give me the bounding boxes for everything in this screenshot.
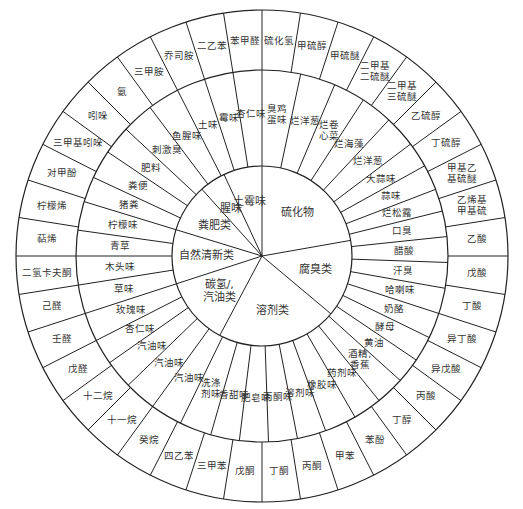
middle-segment-label: 醋酸 (394, 245, 414, 256)
middle-segment-label: 蒜味 (381, 189, 401, 200)
outer-segment-label: 戊酮 (235, 465, 255, 476)
outer-segment-label: 丁酮 (269, 465, 289, 476)
outer-segment-label: 苯酚 (365, 434, 385, 445)
middle-segment-label: 烂松露 (382, 207, 412, 218)
outer-segment-label: 苯甲醛 (230, 34, 260, 45)
outer-segment-label: 癸烷 (139, 434, 159, 445)
middle-segment-label: 土味 (198, 118, 218, 129)
middle-segment-label: 玫瑰味 (116, 304, 146, 315)
outer-segment-label: 三甲胺 (134, 65, 164, 76)
middle-segment-label: 柠檬味 (108, 219, 138, 230)
outer-segment-label: 对甲酚 (47, 167, 77, 178)
outer-segment-label: 十二烷 (83, 390, 113, 401)
middle-segment-label: 刺激臭 (152, 144, 182, 155)
middle-segment-label: 汽油味 (174, 371, 204, 382)
category-label: 自然清新类 (179, 248, 234, 262)
outer-segment-label: 乙烯基甲基硫 (457, 194, 487, 216)
middle-segment-label: 青草 (110, 240, 130, 251)
outer-segment-label: 甲苯 (335, 449, 355, 460)
middle-segment-label: 杏仁味 (125, 323, 155, 334)
outer-segment-label: 乙酸 (467, 233, 487, 244)
category-label: 溶剂类 (256, 303, 289, 317)
category-label: 粪肥类 (198, 218, 231, 232)
middle-segment-label: 哈喇味 (385, 284, 415, 295)
outer-segment-label: 二甲基三硫醚 (387, 80, 417, 102)
outer-segment-label: 异丁酸 (447, 332, 477, 343)
middle-segment-label: 鱼腥味 (172, 129, 202, 140)
outer-segment-label: 二乙苯 (197, 39, 227, 50)
outer-segment-label: 异戊酸 (431, 362, 461, 373)
outer-segment-label: 柠檬烯 (37, 199, 67, 210)
outer-segment-label: 丙酮 (302, 460, 322, 471)
middle-segment-label: 肥料 (141, 161, 161, 172)
outer-segment-label: 甲硫醇 (297, 39, 327, 50)
outer-segment-label: 二氢卡夫酮 (22, 266, 72, 277)
outer-segment-label: 二甲基二硫醚 (360, 60, 390, 82)
outer-segment-label: 壬醛 (52, 332, 72, 343)
outer-segment-label: 乔司胺 (164, 50, 194, 61)
middle-segment-label: 大蒜味 (366, 172, 396, 183)
middle-segment-label: 奶酪 (384, 303, 404, 314)
middle-segment-label: 粪便 (128, 180, 148, 191)
outer-segment-label: 戊醛 (68, 362, 88, 373)
outer-segment-label: 丁醇 (392, 414, 412, 425)
outer-segment-label: 三甲基吲哚 (53, 137, 103, 148)
outer-segment-label: 丙酸 (416, 390, 436, 401)
middle-segment-label: 酵母 (375, 321, 395, 332)
outer-segment-label: 硫化氢 (264, 34, 294, 45)
middle-segment-label: 烂洋葱 (290, 114, 320, 125)
outer-segment-label: 三甲苯 (197, 460, 227, 471)
category-label: 腐臭类 (299, 262, 332, 276)
middle-segment-label: 汗臭 (393, 264, 413, 275)
middle-segment-label: 臭鸡蛋味 (267, 103, 287, 125)
middle-segment-label: 草味 (114, 283, 134, 294)
outer-segment-label: 丁硫醇 (431, 137, 461, 148)
middle-segment-label: 烂洋葱 (353, 154, 383, 165)
middle-segment-label: 洗涤剂味 (201, 377, 221, 399)
outer-segment-label: 氨 (117, 85, 127, 96)
middle-segment-label: 汽油味 (137, 340, 167, 351)
middle-segment-label: 烂海藻 (334, 138, 364, 149)
middle-segment-label: 汽油味 (154, 357, 184, 368)
outer-segment-label: 吲哚 (88, 109, 108, 120)
outer-segment-label: 乙硫醇 (411, 109, 441, 120)
category-label: 碳氢/,汽油类 (203, 277, 236, 304)
middle-segment-label: 药剂味 (327, 367, 357, 378)
outer-segment-label: 十一烷 (107, 414, 137, 425)
outer-segment-label: 戊酸 (467, 266, 487, 277)
middle-segment-label: 香甜味 (219, 389, 249, 400)
outer-segment-label: 丁酸 (462, 300, 482, 311)
outer-segment-label: 萜烯 (37, 233, 57, 244)
middle-segment-label: 口臭 (392, 225, 412, 236)
middle-segment-label: 木头味 (105, 261, 135, 272)
outer-segment-label: 甲基乙基硫醚 (447, 161, 477, 183)
odor-wheel: 硫化氢甲硫醇甲硫醚二甲基二硫醚二甲基三硫醚乙硫醇丁硫醇甲基乙基硫醚乙烯基甲基硫乙… (0, 0, 523, 509)
category-label: 土霉味 (233, 195, 266, 208)
outer-segment-label: 甲硫醚 (330, 50, 360, 61)
middle-segment-label: 杏仁味 (236, 108, 266, 119)
outer-segment-label: 己醛 (42, 300, 62, 311)
outer-segment-label: 四乙苯 (164, 449, 194, 460)
category-label: 硫化物 (281, 205, 314, 219)
middle-segment-label: 猪粪 (119, 199, 139, 210)
